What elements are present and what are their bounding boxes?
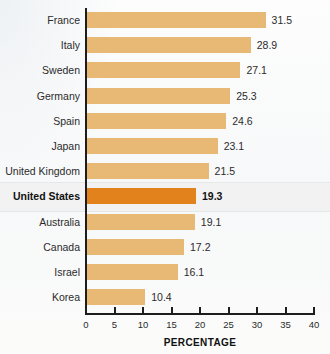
bar-row: Germany25.3	[0, 88, 330, 104]
bar-value-label: 19.3	[202, 188, 222, 204]
axis-tick-label: 10	[128, 319, 158, 330]
bar	[86, 62, 240, 78]
bar-row: Korea10.4	[0, 289, 330, 305]
category-label: Sweden	[42, 62, 80, 78]
axis-tick	[199, 307, 201, 313]
bar-value-label: 28.9	[257, 37, 277, 53]
bar-value-label: 21.5	[215, 163, 235, 179]
horizontal-bar-chart: France31.5Italy28.9Sweden27.1Germany25.3…	[0, 0, 330, 354]
axis-tick	[228, 307, 230, 313]
axis-tick-label: 20	[185, 319, 215, 330]
category-label: Italy	[61, 37, 80, 53]
bar	[86, 239, 184, 255]
bar-row: Israel16.1	[0, 264, 330, 280]
bar	[86, 37, 251, 53]
bar-row: Canada17.2	[0, 239, 330, 255]
bar-row: United States19.3	[0, 188, 330, 204]
axis-tick	[256, 307, 258, 313]
axis-tick-label: 35	[271, 319, 301, 330]
bar-value-label: 24.6	[232, 113, 252, 129]
bar	[86, 88, 230, 104]
axis-tick	[171, 307, 173, 313]
bar-row: Japan23.1	[0, 138, 330, 154]
bar-value-label: 31.5	[272, 12, 292, 28]
category-label: Canada	[43, 239, 80, 255]
category-axis-line	[85, 8, 87, 313]
category-label: Germany	[37, 88, 80, 104]
bar	[86, 113, 226, 129]
axis-tick-label: 30	[242, 319, 272, 330]
bar-row: France31.5	[0, 12, 330, 28]
category-label: Israel	[54, 264, 80, 280]
category-label: Japan	[51, 138, 80, 154]
bar-highlighted	[86, 188, 196, 204]
bar-value-label: 23.1	[224, 138, 244, 154]
category-label: United States	[13, 188, 80, 204]
axis-tick-label: 0	[71, 319, 101, 330]
bar	[86, 289, 145, 305]
axis-tick	[114, 307, 116, 313]
axis-tick-label: 5	[100, 319, 130, 330]
bar-value-label: 19.1	[201, 214, 221, 230]
bar-value-label: 27.1	[246, 62, 266, 78]
bar	[86, 214, 195, 230]
axis-tick-label: 25	[214, 319, 244, 330]
category-label: France	[47, 12, 80, 28]
bar-value-label: 10.4	[151, 289, 171, 305]
bar-row: Spain24.6	[0, 113, 330, 129]
bar	[86, 264, 178, 280]
bar-value-label: 17.2	[190, 239, 210, 255]
bar-row: Australia19.1	[0, 214, 330, 230]
category-label: Korea	[52, 289, 80, 305]
axis-tick	[85, 307, 87, 313]
bar	[86, 163, 209, 179]
axis-tick-label: 40	[299, 319, 329, 330]
bar	[86, 138, 218, 154]
category-label: Spain	[53, 113, 80, 129]
value-axis-line	[85, 313, 315, 315]
axis-tick-label: 15	[157, 319, 187, 330]
category-label: Australia	[39, 214, 80, 230]
bar-row: United Kingdom21.5	[0, 163, 330, 179]
bar-row: Italy28.9	[0, 37, 330, 53]
category-label: United Kingdom	[5, 163, 80, 179]
axis-tick	[285, 307, 287, 313]
x-axis-title: PERCENTAGE	[86, 337, 314, 348]
axis-tick	[142, 307, 144, 313]
bar-value-label: 25.3	[236, 88, 256, 104]
bar-row: Sweden27.1	[0, 62, 330, 78]
axis-tick	[313, 307, 315, 313]
bar-value-label: 16.1	[184, 264, 204, 280]
bar	[86, 12, 266, 28]
